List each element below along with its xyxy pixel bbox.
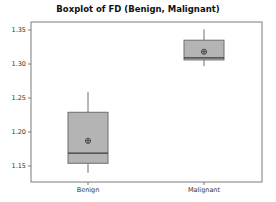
boxplot-chart: 1.151.201.251.301.35BenignMalignant <box>0 0 276 202</box>
y-tick-label: 1.30 <box>12 60 26 68</box>
x-tick-label: Benign <box>77 186 100 194</box>
y-tick-label: 1.20 <box>12 128 26 136</box>
box-benign <box>68 112 108 163</box>
plot-frame <box>31 22 262 182</box>
y-tick-label: 1.15 <box>12 162 26 170</box>
y-tick-label: 1.35 <box>12 26 26 34</box>
y-tick-label: 1.25 <box>12 94 26 102</box>
x-tick-label: Malignant <box>188 186 221 194</box>
